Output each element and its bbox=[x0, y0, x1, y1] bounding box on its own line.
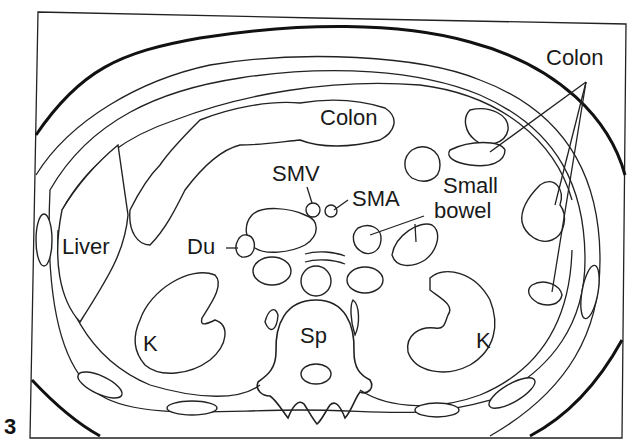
smv-vessel bbox=[306, 203, 320, 217]
kidney-right-shape bbox=[408, 272, 495, 372]
figure-number: 3 bbox=[4, 414, 16, 440]
label-kidney-right: K bbox=[476, 330, 491, 352]
label-smv: SMV bbox=[272, 163, 320, 185]
label-liver: Liver bbox=[62, 236, 110, 258]
colon-loop-2 bbox=[449, 143, 505, 166]
label-du: Du bbox=[187, 236, 215, 258]
label-colon-right: Colon bbox=[546, 47, 603, 69]
wall-muscle-lb bbox=[167, 401, 217, 415]
ivc bbox=[253, 257, 291, 285]
anatomy-diagram bbox=[0, 0, 631, 448]
wall-muscle-right bbox=[577, 264, 602, 320]
label-small-bowel-line1: Small bbox=[443, 175, 498, 197]
leader-smv bbox=[307, 187, 312, 203]
wall-muscle-left bbox=[36, 214, 52, 266]
small-bowel-loop-1 bbox=[353, 226, 381, 254]
aorta bbox=[301, 266, 331, 296]
bowel-right-center bbox=[347, 267, 383, 293]
label-sma: SMA bbox=[352, 188, 400, 210]
sma-vessel bbox=[325, 205, 337, 217]
spinal-canal bbox=[301, 364, 331, 384]
label-small-bowel-line2: bowel bbox=[434, 200, 491, 222]
label-colon-top: Colon bbox=[320, 107, 377, 129]
crura-arc-2 bbox=[305, 260, 345, 264]
pancreas bbox=[246, 209, 316, 253]
crura-arc-1 bbox=[305, 252, 345, 256]
label-kidney-left: K bbox=[143, 333, 158, 355]
wall-muscle-ll bbox=[74, 367, 125, 404]
kidney-left-shape bbox=[135, 273, 225, 373]
label-spine: Sp bbox=[300, 325, 327, 347]
leader-sma bbox=[334, 200, 348, 210]
duodenum bbox=[236, 235, 254, 257]
psoas-left bbox=[265, 310, 278, 330]
colon-loop-1 bbox=[465, 109, 508, 145]
colon-descending-lower bbox=[529, 282, 562, 305]
wall-muscle-rb bbox=[415, 403, 459, 417]
bowel-loop-3 bbox=[405, 147, 440, 181]
